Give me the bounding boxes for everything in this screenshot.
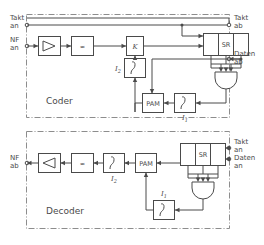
decoder-integrator1-in-arrow [175,208,180,212]
coder-amplifier-block [39,37,61,56]
decoder-data-in-label-line2: an [234,162,243,170]
decoder-section-label: Decoder [46,206,84,216]
coder-audio-in-label-line1: NF [10,36,19,44]
coder-clock-out-rail [27,18,229,25]
decoder-audio-out-label-line2: ab [10,162,19,170]
coder-integrator1-block: I1 [175,94,196,123]
decoder-and-in-arrow-3 [206,178,210,183]
decoder-pam-in-arrow-bottom [144,173,148,178]
decoder-sr-tap-stubs [198,174,208,178]
coder-and-in-arrow-2 [224,68,228,73]
coder-sr-label: SR [222,41,231,49]
coder-amp-in-arrow [34,44,39,48]
coder-clock-out-terminal [227,23,231,27]
decoder-and-in-arrow-2 [201,178,205,183]
coder-comparator-in-arrow [122,44,127,48]
coder-integrator1-name: I1 [181,114,188,123]
coder-and-in-arrow-1 [219,68,223,73]
decoder-data-in-label-line1: Daten [234,154,255,162]
coder-pam-in-arrow-top [150,89,154,94]
coder-clock-tap-junction [181,24,184,27]
decoder-sr-label: SR [199,151,208,159]
coder-audio-in-label-line2: an [10,44,19,52]
decoder-and-gate-icon [192,182,214,199]
coder-filter-label: ≈ [80,43,85,51]
coder-clock-sr-arrow [199,34,204,38]
coder-clock-in-label-line1: Takt [9,14,24,22]
coder-pam-in-arrow-right [164,101,169,105]
coder-comparator-label: K [131,43,138,51]
coder-data-out-label-line2: ab [234,58,243,66]
decoder-integrator2-in-arrow [125,161,130,165]
coder-clock-out-label-line1: Takt [233,14,248,22]
decoder-sr-tap-3 [203,166,218,179]
decoder-filter-in-arrow [94,161,99,165]
coder-filter-in-arrow [67,44,72,48]
decoder-wire-integrator1-to-pam [146,173,154,211]
coder-clock-to-sr [182,25,203,36]
coder-integrator2-in-arrow [133,78,137,83]
coder-sr-tap-1 [211,56,226,69]
decoder-integrator1-name: I1 [160,190,167,199]
coder-filter-block: ≈ [72,37,94,56]
coder-integrator2-block: I2 [114,59,145,78]
decoder-pam-in-arrow-right [157,161,162,165]
decoder-shift-register-block: SR [181,144,226,166]
decoder-clock-in-label-line1: Takt [233,138,248,146]
coder-integrator1-in-arrow [196,101,201,105]
decoder-sr-tap-1 [188,166,203,179]
codec-block-diagram: ≈ K SR I1 [0,0,264,245]
coder-integrator2-name: I2 [114,65,121,74]
coder-clock-in-label-line2: an [10,22,19,30]
coder-section-label: Coder [46,96,73,106]
coder-sr-data-in-arrow [199,44,204,48]
decoder-and-in-arrow-1 [196,178,200,183]
coder-pam-block: PAM [143,94,164,113]
decoder-integrator2-name: I2 [110,175,117,184]
coder-comparator-block: K [127,37,144,56]
coder-clock-out-label-line2: ab [234,22,243,30]
decoder-filter-label: ≈ [80,160,85,168]
decoder-amplifier-block [39,154,61,173]
coder-data-out-label-line1: Daten [234,50,255,58]
decoder-integrator2-block: I2 [104,154,125,184]
decoder-filter-block: ≈ [72,154,94,173]
coder-and-gate-icon [215,72,237,89]
coder-comparator-feedback-arrow [133,56,137,61]
coder-wire-pam-to-integrator2 [135,103,143,112]
decoder-pam-block: PAM [136,154,157,173]
coder-pam-label: PAM [146,100,160,108]
decoder-amp-in-arrow [61,161,66,165]
decoder-integrator1-block: I1 [154,190,175,220]
decoder-clock-in-label-line2: an [234,146,243,154]
decoder-pam-label: PAM [139,160,153,168]
decoder-audio-out-label-line1: NF [10,154,19,162]
